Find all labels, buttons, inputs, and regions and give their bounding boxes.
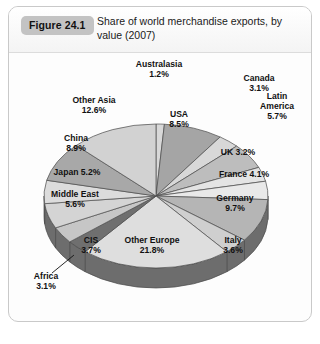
pie-label-value: 3.7%: [71, 245, 111, 255]
pie-label-other-europe: Other Europe21.8%: [109, 235, 195, 255]
pie-label-china: China8.9%: [51, 133, 101, 153]
pie-label-value: 12.6%: [61, 105, 127, 115]
pie-label-uk: UK 3.2%: [207, 147, 269, 157]
pie-label-value: 8.9%: [51, 143, 101, 153]
pie-label-italy: Italy3.6%: [213, 235, 253, 255]
pie-label-name: Italy: [213, 235, 253, 245]
pie-label-africa: Africa3.1%: [19, 271, 73, 291]
pie-label-usa: USA8.5%: [157, 109, 201, 129]
pie-label-australasia: Australasia1.2%: [117, 59, 201, 79]
pie-label-germany: Germany9.7%: [207, 193, 263, 213]
pie-label-name: Middle East: [37, 189, 113, 199]
pie-label-name: Latin America: [251, 91, 303, 111]
pie-label-value: 1.2%: [117, 69, 201, 79]
pie-label-value: 5.7%: [251, 111, 303, 121]
figure-title: Share of world merchandise exports, by v…: [97, 15, 303, 42]
pie-chart: Australasia1.2%USA8.5%Canada3.1%Latin Am…: [9, 53, 311, 321]
pie-label-value: 21.8%: [109, 245, 195, 255]
pie-label-name: USA: [157, 109, 201, 119]
figure-header: Figure 24.1 Share of world merchandise e…: [9, 7, 311, 53]
figure-number-badge: Figure 24.1: [21, 16, 94, 35]
pie-label-name: Other Asia: [61, 95, 127, 105]
pie-label-value: 5.6%: [37, 199, 113, 209]
pie-label-value: 8.5%: [157, 119, 201, 129]
pie-label-name: CIS: [71, 235, 111, 245]
pie-label-name: Africa: [19, 271, 73, 281]
pie-label-cis: CIS3.7%: [71, 235, 111, 255]
pie-label-latin-america: Latin America5.7%: [251, 91, 303, 122]
pie-label-name: China: [51, 133, 101, 143]
pie-label-name: Germany: [207, 193, 263, 203]
pie-label-value: 9.7%: [207, 203, 263, 213]
pie-label-name: Canada: [233, 73, 285, 83]
pie-label-name: Australasia: [117, 59, 201, 69]
pie-label-value: 3.6%: [213, 245, 253, 255]
pie-label-other-asia: Other Asia12.6%: [61, 95, 127, 115]
pie-label-name: Other Europe: [109, 235, 195, 245]
figure-card: Figure 24.1 Share of world merchandise e…: [8, 6, 312, 322]
pie-label-middle-east: Middle East5.6%: [37, 189, 113, 209]
pie-label-value: 3.1%: [19, 281, 73, 291]
pie-label-france: France 4.1%: [209, 169, 279, 179]
pie-label-japan: Japan 5.2%: [39, 167, 115, 177]
